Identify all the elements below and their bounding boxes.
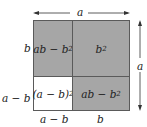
region-bottom-left: (a − b)2 bbox=[33, 76, 73, 111]
top-dimension-label: a bbox=[77, 7, 83, 18]
region-top-left: ab − b2 bbox=[33, 20, 73, 77]
left-label-top: b bbox=[24, 43, 31, 54]
region-bottom-right: ab − b2 bbox=[72, 76, 130, 111]
region-top-right: b2 bbox=[72, 20, 130, 77]
region-bottom-left-base: (a − b) bbox=[32, 88, 69, 100]
region-top-left-base: ab − b bbox=[33, 43, 68, 55]
left-label-bottom: a − b bbox=[2, 93, 30, 104]
bottom-label-left: a − b bbox=[40, 114, 68, 125]
bottom-label-right: b bbox=[97, 114, 104, 125]
region-bottom-right-base: ab − b bbox=[81, 88, 116, 100]
right-dimension-label: a bbox=[137, 61, 143, 72]
